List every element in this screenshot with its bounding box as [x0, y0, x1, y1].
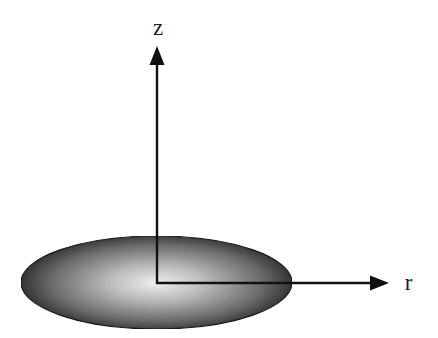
z-arrowhead-icon [150, 46, 165, 65]
z-axis-label: z [153, 15, 163, 40]
r-axis-label: r [405, 270, 413, 295]
cylindrical-coordinates-diagram: z r [0, 0, 438, 338]
r-arrowhead-icon [370, 276, 389, 291]
